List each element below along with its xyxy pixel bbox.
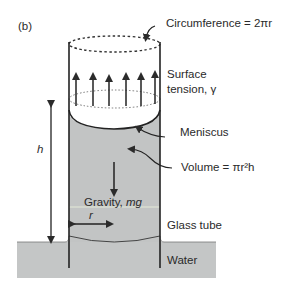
surface-tension-label-1: Surface [167,68,207,80]
panel-label: (b) [18,20,32,32]
surface-tension-label-2: tension, γ [167,83,216,95]
meniscus-ellipse [69,90,160,108]
meniscus-label: Meniscus [180,126,229,138]
glass-tube-label: Glass tube [167,219,222,231]
gravity-label: Gravity, mg [84,196,143,208]
volume-label: Volume = πr²h [181,161,254,173]
height-label: h [37,143,43,155]
circumference-pointer [146,26,155,38]
water-label: Water [167,254,197,266]
circumference-ellipse [69,36,160,52]
circumference-label: Circumference = 2πr [166,17,272,29]
capillary-diagram: (b) Circumference = 2πr Surface tension,… [0,0,293,290]
